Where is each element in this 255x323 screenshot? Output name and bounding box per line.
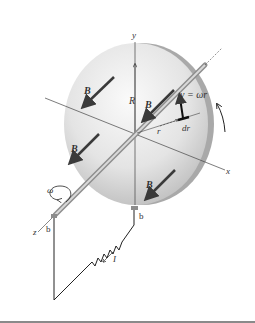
r-label: r <box>157 126 161 136</box>
b-label: B <box>70 143 78 154</box>
b-label: B <box>83 85 91 96</box>
rim-brush-label: b <box>139 211 144 221</box>
x-axis-label: x <box>225 166 230 176</box>
z-axis-label: z <box>32 227 37 237</box>
radius-label: R <box>128 95 135 106</box>
axle-brush-label: b <box>46 224 51 234</box>
faraday-disk-diagram: x y R z r dr v = ωr B B B B ω b b <box>0 0 255 323</box>
y-axis-label: y <box>131 30 136 40</box>
circuit-wire <box>54 210 134 300</box>
velocity-label: v = ωr <box>180 89 207 100</box>
axle-brush <box>51 214 57 218</box>
current-arrow <box>103 252 113 262</box>
rotation-arrow <box>217 104 225 132</box>
b-label: B <box>144 99 152 110</box>
current-label: I <box>112 254 117 264</box>
dr-label: dr <box>182 123 191 133</box>
rim-brush <box>131 206 138 210</box>
b-label: B <box>145 179 153 190</box>
omega-label: ω <box>47 185 53 195</box>
